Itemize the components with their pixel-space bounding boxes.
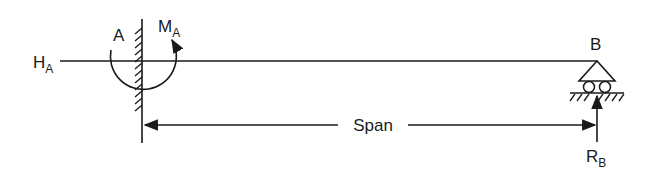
roller-support-b: [570, 61, 624, 101]
label-m-a: MA: [158, 17, 180, 40]
label-b: B: [590, 35, 601, 54]
label-a: A: [113, 26, 125, 45]
span-dimension: Span: [145, 116, 595, 135]
moment-arrow: [110, 40, 176, 89]
fixed-support-a: [135, 19, 142, 143]
label-span: Span: [353, 116, 393, 135]
label-h-a: HA: [33, 53, 53, 76]
beam-diagram: HA A MA B RB Span: [0, 0, 661, 173]
label-r-b: RB: [586, 147, 606, 170]
